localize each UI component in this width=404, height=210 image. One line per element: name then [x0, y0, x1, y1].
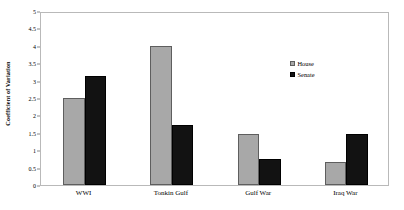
legend-label: Senate [298, 71, 315, 78]
y-axis-title-text: Coefficient of Variation [4, 61, 11, 125]
bar-house-wwi [63, 98, 85, 185]
y-tick-label: 2.5 [29, 96, 37, 102]
y-tick-label: 1 [33, 148, 36, 154]
y-tick-label: 5 [33, 9, 36, 15]
legend-swatch-icon [290, 61, 295, 66]
legend-swatch-icon [290, 72, 295, 77]
bar-group [128, 13, 215, 185]
x-tick-label: Tonkin Gulf [154, 189, 188, 197]
y-axis-tick-labels: 00.511.522.533.544.55 [14, 0, 40, 210]
y-tick-label: 3.5 [29, 61, 37, 67]
plot-inner [41, 13, 388, 185]
bar-group [303, 13, 390, 185]
bar-house-gulf-war [238, 134, 260, 185]
bar-house-iraq-war [325, 162, 347, 185]
x-axis-tick-labels: WWITonkin GulfGulf WarIraq War [40, 189, 389, 205]
bar-house-tonkin-gulf [150, 46, 172, 185]
x-tick-label: Iraq War [333, 189, 357, 197]
y-axis-title: Coefficient of Variation [0, 0, 14, 186]
bar-group [41, 13, 128, 185]
y-tick-label: 0.5 [29, 166, 37, 172]
y-tick-label: 1.5 [29, 131, 37, 137]
legend-item-house[interactable]: House [290, 58, 350, 68]
y-tick-label: 4.5 [29, 26, 37, 32]
bar-senate-tonkin-gulf [172, 125, 194, 185]
legend-label: House [298, 60, 314, 67]
bar-senate-gulf-war [259, 159, 281, 185]
legend-item-senate[interactable]: Senate [290, 69, 350, 79]
y-tick-label: 4 [33, 44, 36, 50]
x-tick-label: Gulf War [245, 189, 271, 197]
bar-group [216, 13, 303, 185]
bar-senate-wwi [85, 76, 107, 185]
bar-senate-iraq-war [346, 134, 368, 185]
plot-area [40, 12, 389, 186]
bar-chart-figure: Coefficient of Variation 00.511.522.533.… [0, 0, 404, 210]
x-tick-label: WWI [76, 189, 92, 197]
chart-legend: HouseSenate [290, 58, 350, 80]
y-tick-label: 3 [33, 79, 36, 85]
y-tick-label: 2 [33, 113, 36, 119]
y-tick-label: 0 [33, 183, 36, 189]
